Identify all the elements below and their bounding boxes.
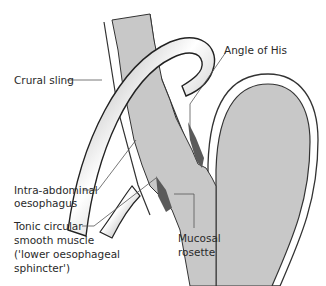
crural-sling-lower [100, 186, 140, 238]
label-crural-sling: Crural sling [14, 73, 74, 87]
label-tonic-2: smooth muscle [14, 233, 94, 247]
label-tonic-4: sphincter') [14, 261, 70, 275]
label-mucosal-1: Mucosal [178, 231, 221, 245]
label-intra-abdominal-1: Intra-abdominal [14, 183, 98, 197]
label-angle-of-his: Angle of His [224, 43, 287, 57]
label-intra-abdominal-2: oesophagus [14, 196, 77, 210]
gastro-oesophageal-junction-diagram: Crural sling Angle of His Intra-abdomina… [0, 0, 326, 286]
label-mucosal-2: rosette [178, 245, 215, 259]
stomach-lumen [216, 84, 310, 286]
label-tonic-1: Tonic circular [14, 219, 83, 233]
label-tonic-3: ('lower oesophageal [14, 247, 120, 261]
